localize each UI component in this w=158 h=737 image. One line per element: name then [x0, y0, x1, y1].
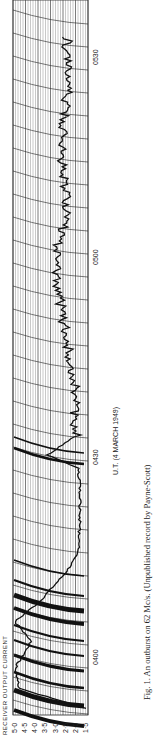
y-tick-label: 2·5	[62, 723, 69, 733]
x-tick-labels: 0400043005000530	[92, 49, 99, 665]
y-tick-label: 2·0	[72, 723, 79, 733]
x-axis-label: U.T. (4 MARCH 1949)	[112, 407, 120, 475]
y-tick-label: 3·5	[41, 723, 48, 733]
figure-caption: Fig. 1. An outburst on 62 Mc/s. (Unpubli…	[142, 464, 152, 700]
y-tick-label: 4·5	[21, 723, 28, 733]
y-tick-label: 3·0	[52, 723, 59, 733]
y-tick-labels: 5·04·54·03·53·02·52·01·5	[11, 723, 89, 733]
y-axis-label: RECEIVER OUTPUT CURRENT	[2, 636, 8, 735]
x-tick-label: 0530	[92, 49, 99, 65]
y-tick-label: 1·5	[82, 723, 89, 733]
x-tick-label: 0400	[92, 649, 99, 665]
y-tick-label: 5·0	[11, 723, 18, 733]
y-tick-label: 4·0	[31, 723, 38, 733]
chart: 5·04·54·03·53·02·52·01·5 RECEIVER OUTPUT…	[0, 0, 158, 737]
figure: 5·04·54·03·53·02·52·01·5 RECEIVER OUTPUT…	[0, 0, 158, 737]
x-tick-label: 0430	[92, 449, 99, 465]
x-tick-label: 0500	[92, 249, 99, 265]
